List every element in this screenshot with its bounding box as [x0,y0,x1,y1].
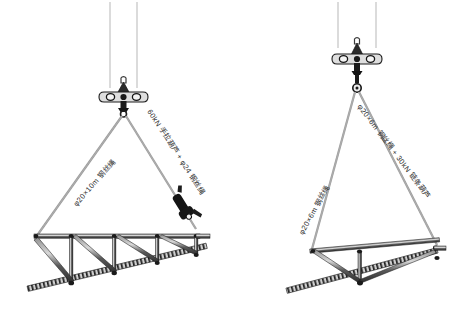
truss-top-chord-overhang [196,234,210,238]
rigging-diagram-canvas [0,0,455,314]
truss-top-chord-overhang [434,246,446,250]
